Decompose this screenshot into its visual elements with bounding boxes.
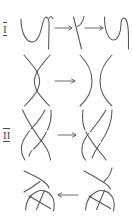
row-4-arrow-1 <box>58 193 78 197</box>
panel-separated-arcs-right <box>80 55 112 106</box>
row-3-arrow-1 <box>58 133 76 137</box>
diagram-row-1: I <box>0 0 132 54</box>
row-1-artwork <box>0 0 132 54</box>
row-2-artwork <box>0 54 132 108</box>
row-4-artwork <box>0 162 132 216</box>
row-1-arrow-2 <box>85 26 103 30</box>
row-2-arrow-1 <box>55 79 75 83</box>
diagram-row-2: II <box>0 54 132 108</box>
panel-three-strand-braid-left <box>21 110 51 160</box>
panel-strand-over-vertex-right <box>84 168 114 211</box>
reidemeister-moves-figure: I <box>0 0 132 216</box>
panel-three-strand-braid-right <box>82 110 112 160</box>
panel-crossed-strand-middle <box>74 17 85 50</box>
row-3-artwork <box>0 108 132 162</box>
panel-lens-double-crossing-left <box>24 55 50 106</box>
row-1-arrow-1 <box>55 26 72 30</box>
panel-curve-with-kink-left <box>21 17 53 49</box>
panel-smooth-wave-right <box>105 17 129 49</box>
panel-strand-over-vertex-left <box>24 171 54 211</box>
diagram-row-3: III <box>0 108 132 162</box>
diagram-row-4: IV <box>0 162 132 216</box>
